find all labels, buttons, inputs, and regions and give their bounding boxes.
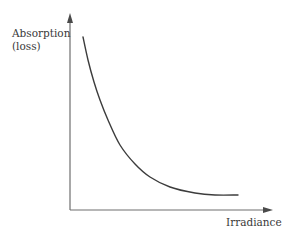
x-axis-label: Irradiance [226, 216, 282, 229]
x-axis [70, 207, 273, 213]
y-axis-label-line-1: Absorption [12, 27, 70, 40]
x-axis-arrow-icon [263, 207, 273, 213]
y-axis-label-line-2: (loss) [12, 40, 70, 53]
y-axis-arrow-icon [67, 13, 73, 23]
absorption-curve [83, 37, 238, 195]
y-axis-label: Absorption (loss) [12, 27, 70, 53]
